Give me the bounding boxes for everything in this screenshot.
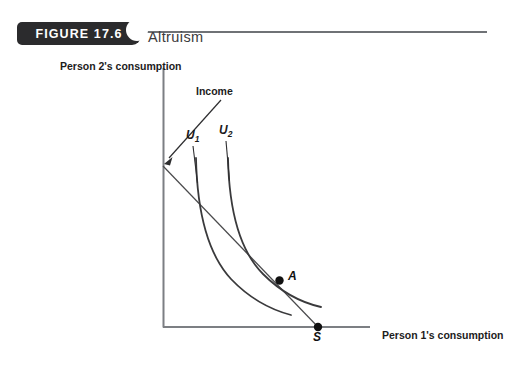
u2-curve-label: U2 — [219, 123, 232, 139]
point-a-marker — [275, 276, 283, 284]
income-arrow-head — [164, 157, 173, 166]
u1-curve-label-subscript: 1 — [195, 134, 200, 144]
x-axis-label: Person 1's consumption — [382, 329, 492, 342]
plot-canvas — [0, 0, 507, 368]
income-label: Income — [196, 85, 233, 98]
u1-curve-label: U1 — [186, 128, 199, 144]
indifference-curve-u2 — [228, 158, 321, 307]
y-axis-label: Person 2's consumption — [60, 60, 156, 73]
u2-leader-line — [226, 141, 230, 181]
u1-curve-label-text: U — [186, 128, 195, 142]
budget-line — [163, 166, 318, 327]
point-a-label: A — [288, 269, 297, 283]
indifference-curve-u1 — [196, 158, 291, 315]
u2-curve-label-text: U — [219, 123, 228, 137]
point-s-label: S — [313, 330, 321, 344]
figure-container: FIGURE 17.6 Altruism Person 2's consumpt… — [0, 0, 507, 368]
u2-curve-label-subscript: 2 — [228, 129, 233, 139]
